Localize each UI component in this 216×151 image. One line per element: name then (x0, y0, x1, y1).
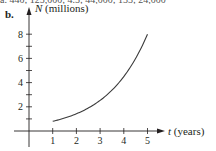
x-tick-label: 3 (98, 135, 103, 146)
ticks: 123452468 (18, 29, 150, 146)
x-tick-label: 1 (50, 135, 55, 146)
y-tick-label: 8 (18, 29, 23, 40)
x-tick-label: 2 (74, 135, 79, 146)
data-curve (53, 34, 148, 121)
y-tick-label: 2 (18, 101, 23, 112)
y-tick-label: 4 (18, 77, 23, 88)
axis-labels: N (millions)t (years) (34, 2, 205, 138)
exponential-growth-chart: 123452468 N (millions)t (years) (0, 0, 216, 151)
y-tick-label: 6 (18, 53, 23, 64)
series-line (53, 34, 148, 121)
x-tick-label: 5 (145, 135, 150, 146)
y-axis-arrow-icon (27, 7, 32, 15)
y-axis-title: N (millions) (34, 2, 89, 15)
x-axis-arrow-icon (157, 129, 165, 134)
x-axis-title: t (years) (168, 125, 205, 138)
axes (14, 7, 165, 147)
x-tick-label: 4 (121, 135, 126, 146)
